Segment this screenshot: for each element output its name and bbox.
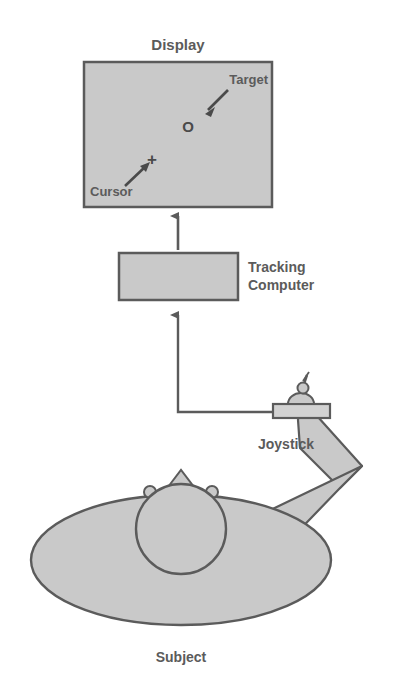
joystick-dome bbox=[288, 393, 314, 404]
tracking-computer-label-line2: Computer bbox=[248, 277, 315, 293]
target-marker: O bbox=[182, 118, 194, 135]
cursor-marker: + bbox=[147, 150, 157, 169]
joystick-label: Joystick bbox=[258, 436, 314, 452]
target-label: Target bbox=[229, 72, 268, 87]
joystick-base bbox=[273, 404, 330, 418]
tracking-computer-label-line1: Tracking bbox=[248, 259, 306, 275]
tracking-computer-box bbox=[119, 253, 238, 300]
joystick-hand-grip bbox=[298, 383, 309, 394]
display-label: Display bbox=[151, 36, 205, 53]
joystick-to-computer-cable bbox=[178, 315, 283, 412]
subject-label: Subject bbox=[156, 649, 207, 665]
apparatus-diagram: Display Target O Cursor + Tracking Compu… bbox=[0, 0, 413, 689]
subject-head bbox=[136, 484, 226, 574]
joystick-assembly[interactable] bbox=[273, 372, 330, 418]
figure-root: Display Target O Cursor + Tracking Compu… bbox=[0, 0, 413, 689]
